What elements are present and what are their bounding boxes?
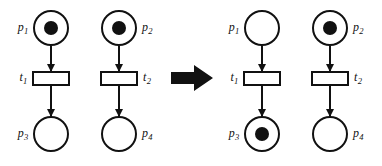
label-place-p1: p1 bbox=[0, 21, 239, 33]
place-p4 bbox=[312, 116, 348, 152]
label-transition-t2: t2 bbox=[354, 71, 362, 83]
transition-t1 bbox=[243, 71, 281, 86]
label-place-p4: p4 bbox=[353, 127, 363, 139]
label-transition-t1: t1 bbox=[0, 71, 238, 83]
petri-net-after: p1p2p3p4t1t2 bbox=[0, 0, 382, 166]
label-place-p3: p3 bbox=[0, 127, 239, 139]
place-p1 bbox=[244, 10, 280, 46]
transition-t2 bbox=[311, 71, 349, 86]
petri-net-figure: p1p2p3p4t1t2 p1p2p3p4t1t2 bbox=[0, 0, 382, 166]
label-place-p2: p2 bbox=[353, 21, 363, 33]
